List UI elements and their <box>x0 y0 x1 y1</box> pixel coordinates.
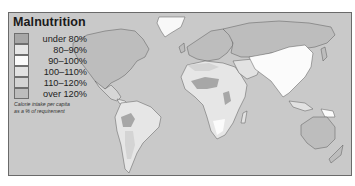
region-uk <box>179 43 185 53</box>
legend-item: 100–110% <box>14 66 89 77</box>
region-south-america <box>115 101 161 173</box>
legend-swatch <box>14 77 29 88</box>
legend-swatch <box>14 88 29 99</box>
legend-item: 90–100% <box>14 55 89 66</box>
region-australia <box>301 117 335 149</box>
caption-line: as a % of requirement <box>14 108 84 115</box>
region-indonesia <box>289 101 313 111</box>
legend: under 80% 80–90% 90–100% 100–110% 110–12… <box>14 33 89 99</box>
legend-item: 80–90% <box>14 44 89 55</box>
region-new-zealand <box>329 145 343 163</box>
legend-swatch <box>14 55 29 66</box>
legend-item: over 120% <box>14 88 89 99</box>
region-madagascar <box>241 111 247 123</box>
region-greenland <box>157 17 185 37</box>
map-frame: Malnutrition under 80% 80–90% 90–100% 10… <box>8 12 352 176</box>
region-new-guinea <box>321 109 335 117</box>
region-japan <box>321 47 327 61</box>
caption-line: Calorie intake per capita <box>14 101 84 108</box>
legend-label: 90–100% <box>29 56 89 66</box>
legend-label: over 120% <box>29 89 89 99</box>
legend-label: under 80% <box>29 34 89 44</box>
legend-caption: Calorie intake per capita as a % of requ… <box>14 101 84 115</box>
map-title: Malnutrition <box>13 15 86 29</box>
legend-label: 110–120% <box>29 78 89 88</box>
legend-item: 110–120% <box>14 77 89 88</box>
legend-item: under 80% <box>14 33 89 44</box>
legend-swatch <box>14 66 29 77</box>
legend-label: 80–90% <box>29 45 89 55</box>
legend-swatch <box>14 33 29 44</box>
region-europe <box>187 29 233 61</box>
legend-label: 100–110% <box>29 67 89 77</box>
region-africa <box>181 61 247 139</box>
legend-swatch <box>14 44 29 55</box>
